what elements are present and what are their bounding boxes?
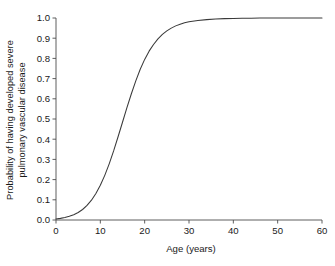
x-tick-label: 60 [317,225,328,236]
y-tick-label: 0.1 [37,194,50,205]
y-tick-label: 0.2 [37,174,50,185]
y-tick-label: 1.0 [37,12,50,23]
data-curve [56,18,322,219]
x-tick-label: 0 [53,225,58,236]
x-tick-label: 20 [139,225,150,236]
y-tick-label: 0.8 [37,53,50,64]
y-tick-label: 0.0 [37,214,50,225]
x-tick-label: 30 [184,225,195,236]
y-tick-label: 0.4 [37,134,51,145]
y-tick-label: 0.3 [37,154,50,165]
x-tick-label: 40 [228,225,239,236]
y-axis-ticks: 0.00.10.20.30.40.50.60.70.80.91.0 [37,12,56,225]
x-tick-label: 10 [95,225,106,236]
plot-area: 0.00.10.20.30.40.50.60.70.80.91.0 010203… [0,0,335,266]
y-tick-label: 0.5 [37,113,50,124]
x-tick-label: 50 [272,225,283,236]
y-tick-label: 0.6 [37,93,50,104]
y-tick-label: 0.9 [37,33,50,44]
chart-figure: Probability of having developed severe p… [0,0,335,266]
x-axis-ticks: 0102030405060 [53,220,327,236]
y-tick-label: 0.7 [37,73,50,84]
